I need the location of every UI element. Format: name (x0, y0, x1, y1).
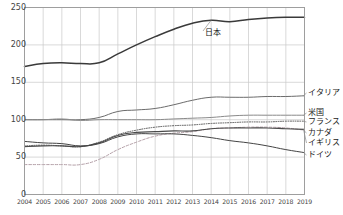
x-tick-label-2019: 2019 (290, 198, 320, 205)
series-label-イタリア: イタリア (308, 89, 340, 98)
plot-border (25, 8, 305, 195)
line-chart: 050100150200250 200420052006200720082009… (0, 0, 343, 215)
y-tick-label-150: 150 (0, 78, 26, 86)
series-lines (25, 17, 305, 165)
series-line-ドイツ (25, 134, 305, 153)
y-tick-label-250: 250 (0, 4, 26, 12)
gridlines (25, 8, 305, 195)
series-line-イタリア (25, 96, 305, 120)
series-label-フランス: フランス (308, 118, 340, 127)
y-tick-label-100: 100 (0, 116, 26, 124)
leader-line-フランス (304, 121, 307, 122)
y-tick-label-200: 200 (0, 41, 26, 49)
series-label-イギリス: イギリス (308, 139, 340, 148)
chart-canvas (0, 0, 343, 215)
series-line-日本 (25, 17, 305, 66)
y-tick-label-50: 50 (0, 153, 26, 161)
series-label-ドイツ: ドイツ (308, 151, 332, 160)
series-label-カナダ: カナダ (308, 129, 332, 138)
series-inline-label-japan: 日本 (205, 28, 221, 37)
